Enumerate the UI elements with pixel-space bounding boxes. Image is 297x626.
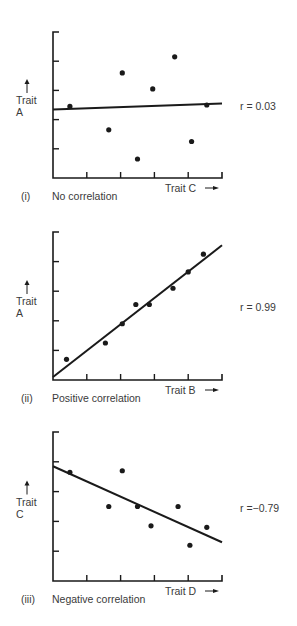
- data-point: [103, 340, 108, 345]
- data-point: [106, 504, 111, 509]
- data-point: [135, 504, 140, 509]
- x-axis-label: Trait C: [165, 182, 197, 194]
- data-point: [120, 321, 125, 326]
- arrow-up-icon: [25, 481, 30, 486]
- arrow-up-icon: [25, 280, 30, 285]
- data-point: [204, 525, 209, 530]
- data-point: [150, 86, 155, 91]
- data-point: [147, 302, 152, 307]
- data-point: [67, 470, 72, 475]
- correlation-coefficient: r = 0.03: [240, 100, 276, 112]
- scatter-panel-1: TraitAr = 0.03Trait C(i)No correlation: [16, 32, 276, 202]
- data-point: [186, 269, 191, 274]
- data-point: [120, 468, 125, 473]
- panel-caption: No correlation: [52, 190, 118, 202]
- x-axis-label: Trait B: [165, 384, 196, 396]
- panel-number: (i): [21, 190, 30, 202]
- arrow-right-icon: [213, 388, 219, 392]
- data-point: [148, 523, 153, 528]
- y-axis-label: Trait: [16, 496, 37, 508]
- regression-line: [53, 104, 222, 110]
- scatter-panel-2: TraitAr = 0.99Trait B(ii)Positive correl…: [16, 232, 276, 404]
- panel-caption: Positive correlation: [52, 392, 141, 404]
- data-point: [67, 104, 72, 109]
- data-point: [189, 139, 194, 144]
- data-point: [172, 54, 177, 59]
- data-point: [120, 70, 125, 75]
- correlation-coefficient: r = 0.99: [240, 301, 276, 313]
- y-axis-label: Trait: [16, 295, 37, 307]
- data-point: [133, 302, 138, 307]
- panel-number: (ii): [21, 392, 33, 404]
- data-point: [135, 156, 140, 161]
- y-axis-label: Trait: [16, 94, 37, 106]
- data-point: [201, 252, 206, 257]
- data-point: [106, 127, 111, 132]
- x-axis-label: Trait D: [165, 585, 197, 597]
- panel-number: (iii): [21, 593, 35, 605]
- correlation-coefficient: r =−0.79: [240, 502, 279, 514]
- y-axis-label-letter: C: [16, 508, 24, 520]
- data-point: [170, 286, 175, 291]
- scatter-panel-3: TraitCr =−0.79Trait D(iii)Negative corre…: [16, 432, 279, 605]
- arrow-right-icon: [213, 589, 219, 593]
- data-point: [64, 357, 69, 362]
- arrow-right-icon: [213, 186, 219, 190]
- data-point: [187, 543, 192, 548]
- data-point: [204, 102, 209, 107]
- data-point: [175, 504, 180, 509]
- y-axis-label-letter: A: [16, 106, 23, 118]
- arrow-up-icon: [25, 79, 30, 84]
- y-axis-label-letter: A: [16, 307, 23, 319]
- correlation-figure: TraitAr = 0.03Trait C(i)No correlationTr…: [0, 0, 297, 626]
- panel-caption: Negative correlation: [52, 593, 146, 605]
- regression-line: [53, 245, 222, 377]
